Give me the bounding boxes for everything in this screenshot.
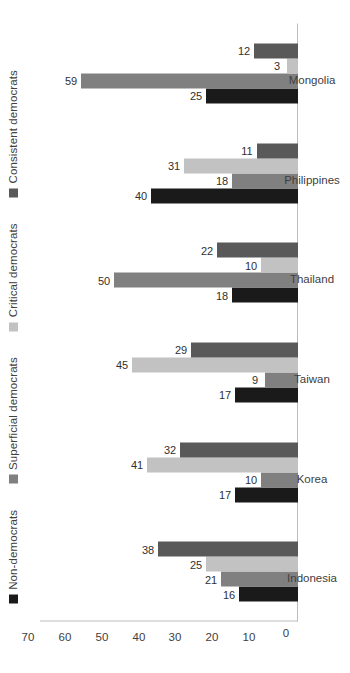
bar-value-label: 10 [245,473,257,485]
bar-value-label: 59 [64,74,76,86]
bar[interactable] [287,58,298,73]
bar[interactable] [261,472,298,487]
bar-group: 40183111Philippines [40,123,298,223]
legend-item[interactable]: Superficial democrats [7,357,19,484]
bar[interactable] [261,257,298,272]
bar-value-label: 45 [116,358,128,370]
bar-value-label: 12 [238,44,250,56]
bar-slot: 9 [40,372,298,387]
bar-value-label: 18 [216,174,228,186]
category-label: Philippines [284,173,340,185]
bar-slot: 38 [40,541,298,556]
bar[interactable] [180,442,298,457]
bar-slot: 22 [40,242,298,257]
bar-slot: 50 [40,272,298,287]
bar-value-label: 17 [219,488,231,500]
y-axis-tick-label: 30 [169,630,182,642]
bar[interactable] [239,586,298,601]
bar-value-label: 50 [98,274,110,286]
bar[interactable] [81,73,298,88]
bar[interactable] [265,372,298,387]
legend-item[interactable]: Critical democrats [7,223,19,331]
bar-slot: 3 [40,58,298,73]
bar[interactable] [217,242,298,257]
bar[interactable] [191,342,298,357]
bar-value-label: 38 [142,543,154,555]
bar[interactable] [257,143,298,158]
bar-value-label: 41 [131,458,143,470]
chart-legend: Non-democratsSuperficial democratsCritic… [0,0,26,673]
bar[interactable] [158,541,298,556]
rotated-figure-wrapper: Non-democratsSuperficial democratsCritic… [0,0,350,673]
bar-value-label: 9 [252,373,258,385]
bar-slot: 10 [40,472,298,487]
bar-slot: 25 [40,556,298,571]
bar-group: 16212538Indonesia [40,521,298,621]
bar-group: 1794529Taiwan [40,322,298,422]
y-axis-tick-label: 60 [58,630,71,642]
legend-swatch-icon [9,474,18,483]
y-axis-tick-label: 40 [132,630,145,642]
bar[interactable] [132,357,298,372]
bar-slot: 12 [40,43,298,58]
bar-slot: 21 [40,571,298,586]
y-axis-tick-label: 20 [206,630,219,642]
bar-slot: 31 [40,158,298,173]
bar-value-label: 25 [190,89,202,101]
bar-slot: 10 [40,257,298,272]
bar-slot: 59 [40,73,298,88]
legend-item[interactable]: Consistent democrats [7,70,19,197]
bar-value-label: 31 [168,159,180,171]
legend-item[interactable]: Non-democrats [7,509,19,603]
bar-value-label: 17 [219,388,231,400]
bar-value-label: 40 [134,189,146,201]
y-axis-tick-label: 70 [22,630,35,642]
bar-slot: 18 [40,173,298,188]
bar-slot: 16 [40,586,298,601]
category-label: Korea [297,472,328,484]
legend-swatch-icon [9,188,18,197]
bar[interactable] [232,287,298,302]
legend-swatch-icon [9,594,18,603]
bar[interactable] [235,387,298,402]
bar-slot: 41 [40,457,298,472]
legend-label: Critical democrats [7,223,19,317]
category-label: Indonesia [287,571,337,583]
bar-value-label: 10 [245,259,257,271]
category-label: Taiwan [294,372,330,384]
bar[interactable] [254,43,298,58]
bar[interactable] [147,457,298,472]
bar[interactable] [235,487,298,502]
bar-slot: 17 [40,487,298,502]
bar-value-label: 16 [223,588,235,600]
bar-group: 2559312Mongolia [40,23,298,123]
y-axis-tick-label: 50 [95,630,108,642]
bar[interactable] [184,158,298,173]
bar-slot: 11 [40,143,298,158]
bar-slot: 32 [40,442,298,457]
bar-value-label: 22 [201,244,213,256]
bar-slot: 29 [40,342,298,357]
plot-area: 01020304050607016212538Indonesia17104132… [40,23,298,621]
bar-group: 18501022Thailand [40,222,298,322]
bar-group: 17104132Korea [40,422,298,522]
bar[interactable] [114,272,298,287]
bar-chart-figure: Non-democratsSuperficial democratsCritic… [0,0,350,673]
bar-value-label: 25 [190,558,202,570]
bar-value-label: 21 [204,573,216,585]
bar[interactable] [206,88,298,103]
bar[interactable] [206,556,298,571]
bar[interactable] [151,188,298,203]
y-axis-tick-label: 10 [243,630,256,642]
bar-slot: 25 [40,88,298,103]
legend-label: Non-democrats [7,509,19,589]
bar-slot: 17 [40,387,298,402]
category-label: Thailand [290,272,334,284]
bar-slot: 40 [40,188,298,203]
bar-value-label: 18 [216,289,228,301]
legend-swatch-icon [9,322,18,331]
bar-slot: 18 [40,287,298,302]
legend-label: Consistent democrats [7,70,19,183]
legend-label: Superficial democrats [7,357,19,470]
bar-slot: 45 [40,357,298,372]
